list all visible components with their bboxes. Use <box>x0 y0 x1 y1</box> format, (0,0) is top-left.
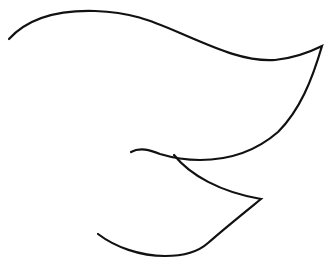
drawing-background <box>0 0 330 264</box>
line-drawing-canvas <box>0 0 330 264</box>
